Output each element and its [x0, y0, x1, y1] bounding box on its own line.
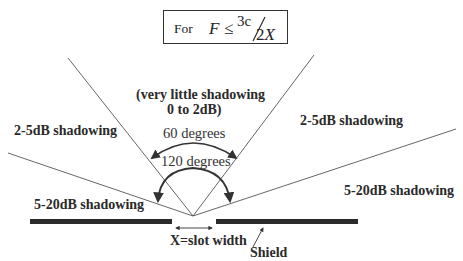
slot-shadowing-diagram: For F ≤ 3c 2X (very little shadowing 0 t… — [0, 0, 463, 261]
lower-right-region-label: 5-20dB shadowing — [344, 184, 454, 198]
inner-angle-label: 60 degrees — [163, 126, 225, 141]
upper-left-region-label: 2-5dB shadowing — [14, 124, 117, 138]
denominator-variable: X — [265, 25, 275, 44]
slot-width-label: X=slot width — [170, 234, 247, 248]
center-region-label-line1: (very little shadowing — [136, 88, 265, 102]
shield-label: Shield — [250, 246, 287, 260]
arc-120-degrees — [158, 168, 230, 201]
lower-left-region-label: 5-20dB shadowing — [34, 198, 144, 212]
shield-left — [30, 219, 172, 224]
denominator-coefficient: 2 — [256, 25, 265, 44]
boundary-line-lower-right — [193, 129, 456, 216]
shield-right — [216, 219, 358, 224]
formula-denominator: 2X — [256, 25, 275, 45]
outer-angle-label: 120 degrees — [161, 154, 231, 169]
upper-right-region-label: 2-5dB shadowing — [300, 114, 403, 128]
frequency-condition-box: For F ≤ 3c 2X — [163, 10, 288, 44]
center-region-label-line2: 0 to 2dB) — [167, 103, 221, 117]
